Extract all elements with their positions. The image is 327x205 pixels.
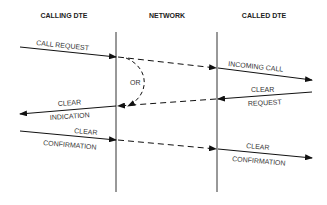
network-forward-dashed-arrow — [118, 57, 216, 68]
network-backward-dashed-arrow — [118, 99, 216, 106]
header-network: NETWORK — [149, 12, 185, 19]
clear-request-arrow — [218, 92, 312, 99]
or-label: OR — [130, 79, 141, 86]
clear-confirmation-right-line1: CLEAR — [246, 142, 270, 151]
clear-confirmation-left-line1: CLEAR — [74, 127, 98, 136]
call-clearing-sequence-diagram: CALLING DTE NETWORK CALLED DTE CALL REQU… — [0, 0, 327, 205]
clear-confirmation-left-line2: CONFIRMATION — [43, 139, 97, 151]
call-request-label: CALL REQUEST — [36, 39, 90, 53]
clear-confirmation-left-arrow — [20, 131, 116, 140]
clear-confirmation-right-line2: CONFIRMATION — [232, 155, 286, 167]
clear-indication-label-line2: INDICATION — [50, 111, 90, 121]
header-called-dte: CALLED DTE — [242, 12, 287, 19]
clear-request-label-line1: CLEAR — [251, 86, 274, 93]
diagram-canvas: CALLING DTE NETWORK CALLED DTE CALL REQU… — [0, 0, 327, 205]
clear-indication-label-line1: CLEAR — [58, 98, 82, 107]
incoming-call-label: INCOMING CALL — [228, 60, 284, 73]
network-confirmation-dashed-arrow — [118, 140, 216, 149]
clear-request-label-line2: REQUEST — [248, 98, 283, 108]
header-calling-dte: CALLING DTE — [40, 12, 87, 19]
